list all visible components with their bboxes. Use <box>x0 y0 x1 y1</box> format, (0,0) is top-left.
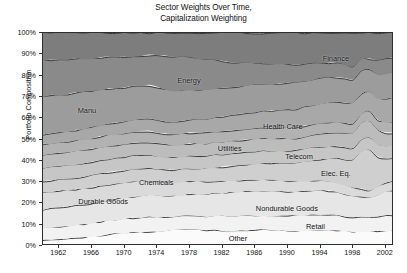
x-tick-label: 1994 <box>303 248 337 257</box>
chart-title-line-2: Capitalization Weighting <box>0 13 407 24</box>
stacked-area-chart <box>43 33 393 245</box>
x-tick-label: 1982 <box>205 248 239 257</box>
x-tick-label: 1970 <box>107 248 141 257</box>
y-tick-label: 100% <box>2 28 36 37</box>
x-tick-mark <box>189 245 190 248</box>
y-tick-label: 70% <box>2 91 36 100</box>
x-tick-mark <box>385 245 386 248</box>
band-label-retail: Retail <box>306 221 325 230</box>
y-tick-mark <box>39 245 42 246</box>
chart-figure: Sector Weights Over Time, Capitalization… <box>0 0 407 273</box>
band-label-finance: Finance <box>323 53 349 62</box>
y-tick-label: 40% <box>2 155 36 164</box>
band-label-durable-goods: Durable Goods <box>78 197 128 206</box>
x-tick-mark <box>320 245 321 248</box>
band-label-chemicals: Chemicals <box>139 178 174 187</box>
band-label-utilities: Utilities <box>218 144 242 153</box>
band-label-telecom: Telecom <box>285 151 313 160</box>
band-label-elec-eq: Elec. Eq. <box>321 168 351 177</box>
x-tick-label: 1966 <box>74 248 108 257</box>
x-tick-mark <box>124 245 125 248</box>
x-tick-label: 1962 <box>41 248 75 257</box>
x-tick-mark <box>222 245 223 248</box>
x-tick-label: 2002 <box>368 248 402 257</box>
y-tick-label: 90% <box>2 49 36 58</box>
y-tick-label: 10% <box>2 219 36 228</box>
x-tick-label: 1990 <box>270 248 304 257</box>
x-tick-label: 1974 <box>139 248 173 257</box>
y-tick-label: 60% <box>2 113 36 122</box>
y-tick-label: 50% <box>2 134 36 143</box>
y-tick-label: 80% <box>2 70 36 79</box>
x-tick-mark <box>91 245 92 248</box>
band-label-health-care: Health Care <box>263 121 302 130</box>
x-tick-mark <box>287 245 288 248</box>
plot-area <box>42 32 393 245</box>
band-label-nondurable-goods: Nondurable Goods <box>256 203 318 212</box>
x-tick-mark <box>254 245 255 248</box>
y-tick-label: 30% <box>2 177 36 186</box>
x-tick-mark <box>156 245 157 248</box>
band-label-manu: Manu <box>78 105 97 114</box>
x-tick-mark <box>352 245 353 248</box>
x-tick-label: 1978 <box>172 248 206 257</box>
x-tick-mark <box>58 245 59 248</box>
y-tick-label: 0% <box>2 241 36 250</box>
y-tick-label: 20% <box>2 198 36 207</box>
band-label-energy: Energy <box>177 75 200 84</box>
x-tick-label: 1998 <box>335 248 369 257</box>
band-label-other: Other <box>229 233 247 242</box>
x-tick-label: 1986 <box>237 248 271 257</box>
chart-title: Sector Weights Over Time, Capitalization… <box>0 2 407 24</box>
chart-title-line-1: Sector Weights Over Time, <box>0 2 407 13</box>
